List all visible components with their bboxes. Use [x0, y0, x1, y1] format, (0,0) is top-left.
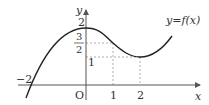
y-tick-three-halves: 3 2: [74, 31, 84, 55]
y-tick-1: 1: [88, 56, 95, 69]
x-tick-2: 2: [137, 89, 144, 102]
fraction-numerator: 3: [76, 31, 82, 42]
curve-f: [26, 28, 172, 98]
curve-label: y=f(x): [165, 14, 200, 27]
origin-label: O: [75, 89, 84, 102]
fraction-denominator: 2: [76, 44, 82, 55]
x-tick-1: 1: [110, 89, 117, 102]
function-graph: y x O −2 1 2 2 3 2 1 y=f(x): [0, 0, 209, 105]
x-tick-neg2: −2: [16, 73, 32, 86]
x-axis-label: x: [195, 90, 202, 103]
y-tick-2: 2: [78, 16, 85, 29]
